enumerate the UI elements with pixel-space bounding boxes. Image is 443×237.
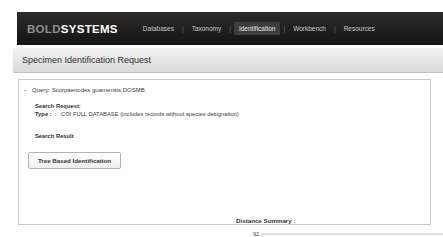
svg-text:92: 92: [253, 231, 259, 237]
page-title-bar: Specimen Identification Request: [13, 48, 443, 73]
specimen-identification-page: BOLDSYSTEMS Databases | Taxonomy | Ident…: [0, 0, 443, 237]
distance-summary-chart: Distance Summary : 848688909211223344556…: [234, 217, 443, 237]
nav-separator: |: [182, 25, 184, 32]
search-request-heading: Search Request:: [35, 103, 81, 109]
top-nav-bar: BOLDSYSTEMS Databases | Taxonomy | Ident…: [17, 12, 443, 45]
query-panel: - Query: Scorpaenodes guamensis.DOSMB Se…: [18, 79, 431, 225]
nav-item-resources[interactable]: Resources: [339, 22, 380, 35]
nav-separator: |: [283, 25, 285, 32]
query-line: Query: Scorpaenodes guamensis.DOSMB: [32, 87, 145, 93]
nav-item-taxonomy[interactable]: Taxonomy: [187, 22, 227, 35]
query-row[interactable]: - Query: Scorpaenodes guamensis.DOSMB: [22, 86, 145, 93]
search-result-heading: Search Result: [35, 133, 74, 139]
nav-item-identification[interactable]: Identification: [234, 22, 281, 35]
nav-separator: |: [229, 25, 231, 32]
bold-systems-logo[interactable]: BOLDSYSTEMS: [17, 23, 118, 35]
nav-item-workbench[interactable]: Workbench: [288, 22, 331, 35]
chart-title: Distance Summary :: [236, 217, 296, 224]
collapse-icon[interactable]: -: [22, 86, 29, 93]
logo-systems-text: SYSTEMS: [61, 23, 118, 35]
search-type-row: Type : COI FULL DATABASE (includes recor…: [35, 111, 239, 117]
type-value: COI FULL DATABASE (includes records with…: [61, 111, 239, 117]
tree-based-identification-button[interactable]: Tree Based Identification: [28, 152, 121, 169]
nav-item-databases[interactable]: Databases: [138, 22, 179, 35]
main-nav: Databases | Taxonomy | Identification | …: [138, 22, 380, 35]
similarity-area-chart: 848688909211223344556677889100Similarity…: [234, 226, 443, 237]
page-title: Specimen Identification Request: [13, 55, 151, 65]
logo-bold-text: BOLD: [27, 23, 61, 35]
type-label: Type :: [35, 111, 61, 117]
nav-separator: |: [334, 25, 336, 32]
